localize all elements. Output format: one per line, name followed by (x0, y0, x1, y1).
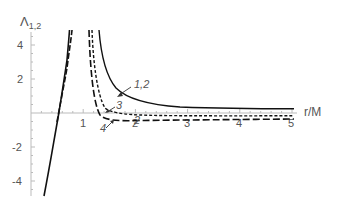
curve-1-2-right (99, 30, 294, 109)
annotation-4: 4 (100, 122, 106, 134)
y-axis-label-main: Λ (20, 14, 29, 29)
y-axis-label-sub: 1,2 (29, 21, 42, 31)
y-tick-label: -4 (12, 175, 22, 187)
y-axis-label: Λ1,2 (20, 14, 41, 31)
chart: 4 2 -2 -4 1 2 3 4 5 Λ1,2 r/M 1,2 3 4 2 (0, 0, 337, 208)
arrow-4 (106, 122, 112, 128)
y-tick-label: -2 (12, 141, 22, 153)
annotation-2: 2 (133, 114, 140, 126)
x-tick-label: 1 (80, 117, 86, 129)
x-ticks (41, 109, 292, 113)
x-axis-label: r/M (304, 105, 321, 119)
annotation-1-2: 1,2 (134, 78, 149, 90)
y-tick-label: 2 (17, 73, 23, 85)
y-tick-label: 4 (17, 39, 23, 51)
x-tick-label: 3 (184, 117, 190, 129)
annotation-3: 3 (116, 99, 123, 111)
curve-3 (92, 30, 294, 116)
